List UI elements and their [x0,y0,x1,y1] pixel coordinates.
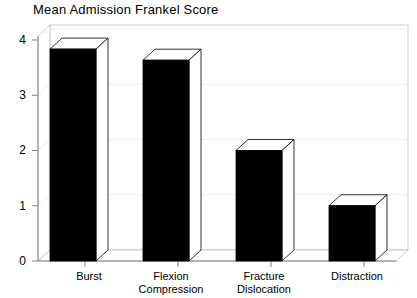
bar-distraction-front [329,206,375,261]
x-category-label-distraction: Distraction [302,270,412,283]
y-tick-label-1: 1 [4,200,26,212]
bar-distraction[interactable] [329,195,387,261]
left-wall [38,25,50,261]
y-axis-ticks [32,40,38,261]
bar-fracture-dislocation-front [236,151,282,262]
bar-flexion-compression-front [143,60,189,261]
chart-container: Mean Admission Frankel Score [0,0,417,298]
x-axis-ticks [85,261,364,267]
y-tick-label-4: 4 [4,34,26,46]
bar-flexion-compression[interactable] [143,49,201,261]
y-tick-label-0: 0 [4,255,26,267]
bar-burst-front [50,49,96,261]
bar-distraction-side [375,195,387,261]
y-tick-label-3: 3 [4,89,26,101]
bar-fracture-dislocation[interactable] [236,140,294,262]
bar-burst[interactable] [50,38,108,261]
chart-plot-area [0,0,417,298]
bar-flexion-compression-side [189,49,201,261]
bar-fracture-dislocation-side [282,140,294,262]
y-tick-label-2: 2 [4,144,26,156]
bar-burst-side [96,38,108,261]
